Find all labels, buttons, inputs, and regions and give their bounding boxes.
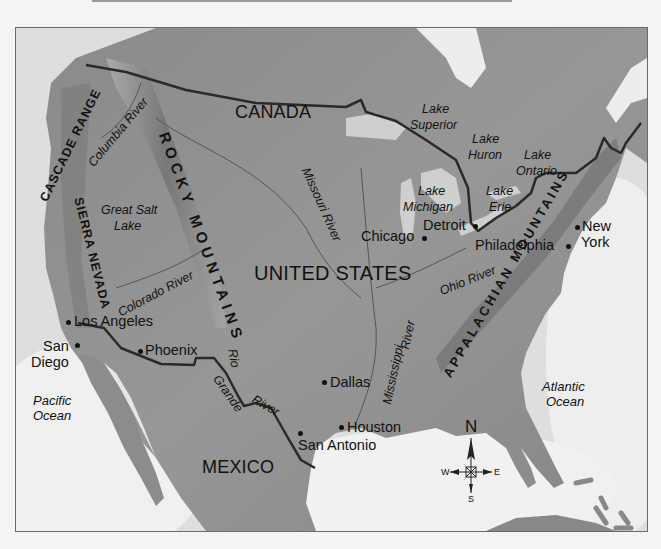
lake-label-michigan-2: Michigan xyxy=(403,201,453,214)
lake-label-superior-1: Lake xyxy=(422,103,449,116)
city-marker-new-york xyxy=(575,225,580,230)
lake-label-michigan-1: Lake xyxy=(418,185,445,198)
city-label-new-york-2: York xyxy=(581,235,609,250)
city-label-houston: Houston xyxy=(347,420,401,435)
lake-label-ontario-1: Lake xyxy=(524,149,551,162)
city-label-los-angeles: Los Angeles xyxy=(74,314,153,329)
map-frame: CANADA UNITED STATES MEXICO CASCADE RANG… xyxy=(15,27,648,532)
ocean-label-atlantic-2: Ocean xyxy=(546,395,584,409)
lake-label-great-salt-1: Great Salt xyxy=(101,204,157,217)
ocean-label-pacific-1: Pacific xyxy=(33,394,71,408)
city-label-new-york-1: New xyxy=(582,219,611,234)
city-label-detroit: Detroit xyxy=(423,218,466,233)
city-label-dallas: Dallas xyxy=(330,375,370,390)
city-marker-los-angeles xyxy=(66,320,71,325)
ocean-label-pacific-2: Ocean xyxy=(33,409,71,423)
compass-arrow-icon xyxy=(441,418,501,508)
city-label-chicago: Chicago xyxy=(361,229,414,244)
city-marker-san-antonio xyxy=(298,431,303,436)
city-label-philadelphia: Philadelphia xyxy=(475,238,554,253)
country-label-mexico: MEXICO xyxy=(202,458,274,476)
compass-rose: N W E S xyxy=(441,418,501,508)
ocean-label-atlantic-1: Atlantic xyxy=(542,380,585,394)
country-label-canada: CANADA xyxy=(235,103,311,121)
lake-label-great-salt-2: Lake xyxy=(114,220,141,233)
city-marker-san-diego xyxy=(75,343,80,348)
city-marker-phoenix xyxy=(138,349,143,354)
city-label-san-antonio: San Antonio xyxy=(298,438,376,453)
city-marker-houston xyxy=(339,425,344,430)
city-marker-philadelphia xyxy=(566,244,571,249)
lake-label-superior-2: Superior xyxy=(410,119,457,132)
city-marker-detroit xyxy=(473,224,478,229)
city-label-phoenix: Phoenix xyxy=(145,343,197,358)
lake-label-huron-2: Huron xyxy=(468,149,502,162)
city-label-san-diego-2: Diego xyxy=(31,355,69,370)
lake-label-ontario-2: Ontario xyxy=(516,165,557,178)
lake-label-erie-2: Erie xyxy=(489,201,511,214)
country-label-united-states: UNITED STATES xyxy=(254,263,411,283)
city-marker-chicago xyxy=(422,236,427,241)
city-marker-dallas xyxy=(322,380,327,385)
city-label-san-diego-1: San xyxy=(43,339,69,354)
lake-label-huron-1: Lake xyxy=(472,133,499,146)
top-edge-line xyxy=(92,0,512,2)
river-label-rio-grande-1: Rio xyxy=(226,348,242,369)
lake-label-erie-1: Lake xyxy=(486,185,513,198)
